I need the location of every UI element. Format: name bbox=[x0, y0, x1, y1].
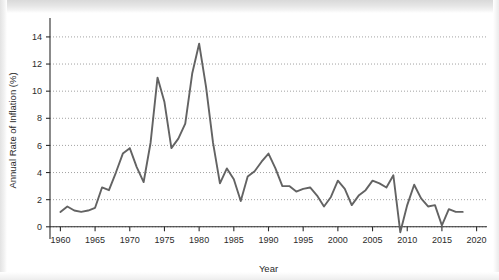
x-tick-labels: 1960196519701975198019851990199520002005… bbox=[50, 235, 486, 245]
y-tick-label: 8 bbox=[37, 113, 42, 123]
y-tick-labels: 02468101214 bbox=[32, 32, 42, 232]
x-tick-label: 1970 bbox=[120, 235, 140, 245]
y-tick-marks bbox=[46, 37, 50, 227]
x-tick-label: 2020 bbox=[467, 235, 487, 245]
x-tick-label: 2000 bbox=[328, 235, 348, 245]
y-axis: 02468101214 Annual Rate of Inflation (%) bbox=[7, 18, 50, 239]
x-tick-label: 1960 bbox=[50, 235, 70, 245]
y-tick-label: 6 bbox=[37, 141, 42, 151]
y-axis-title: Annual Rate of Inflation (%) bbox=[7, 72, 18, 188]
x-tick-label: 2015 bbox=[432, 235, 452, 245]
x-tick-label: 1990 bbox=[258, 235, 278, 245]
y-tick-label: 0 bbox=[37, 222, 42, 232]
x-tick-label: 1965 bbox=[85, 235, 105, 245]
x-axis-title: Year bbox=[259, 263, 278, 274]
x-tick-label: 2005 bbox=[363, 235, 383, 245]
y-tick-label: 2 bbox=[37, 195, 42, 205]
x-tick-marks bbox=[60, 227, 476, 232]
x-tick-label: 1995 bbox=[293, 235, 313, 245]
x-tick-label: 2010 bbox=[397, 235, 417, 245]
chart-canvas: 02468101214 Annual Rate of Inflation (%)… bbox=[0, 0, 499, 280]
y-tick-label: 4 bbox=[37, 168, 42, 178]
inflation-series-line bbox=[60, 44, 462, 233]
x-tick-label: 1975 bbox=[154, 235, 174, 245]
x-tick-label: 1980 bbox=[189, 235, 209, 245]
y-tick-label: 10 bbox=[32, 86, 42, 96]
y-tick-label: 14 bbox=[32, 32, 42, 42]
x-axis: 1960196519701975198019851990199520002005… bbox=[50, 227, 487, 274]
y-tick-label: 12 bbox=[32, 59, 42, 69]
x-tick-label: 1985 bbox=[224, 235, 244, 245]
inflation-line-chart: 02468101214 Annual Rate of Inflation (%)… bbox=[0, 0, 499, 280]
